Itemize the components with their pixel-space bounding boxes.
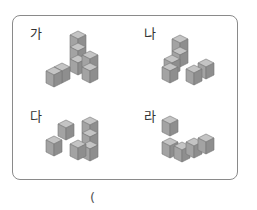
figure-na xyxy=(162,35,214,85)
figure-da xyxy=(46,117,98,161)
figure-ra xyxy=(162,116,214,162)
cube-figures xyxy=(0,0,257,210)
answer-blank: ( xyxy=(90,190,95,205)
figure-ga xyxy=(46,31,98,87)
